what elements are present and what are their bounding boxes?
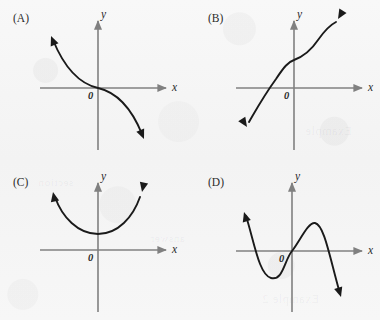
- panel-b-arrowhead-upper-right: [334, 9, 346, 22]
- panel-b-curve-path: [249, 22, 336, 122]
- panel-c-arrowhead-upper-right: [138, 182, 148, 193]
- panel-b-arrowhead-lower-left: [238, 117, 250, 130]
- panel-c-arrowhead-upper-left: [49, 191, 59, 202]
- panel-a-arrowhead-lower-right: [136, 129, 147, 141]
- graphs-canvas: [0, 0, 380, 320]
- panel-a-axes: [40, 21, 166, 150]
- panel-a-arrowhead-upper-left: [47, 34, 58, 46]
- figure-sheet: Example Example 2 section answer (A) (B)…: [0, 0, 380, 320]
- panel-d-arrowhead-lower-right: [334, 287, 345, 299]
- panel-b-axes: [236, 21, 362, 150]
- panel-c-axes: [40, 183, 166, 312]
- panel-b-curve: [238, 9, 346, 130]
- panel-d-arrowhead-upper-left: [240, 211, 251, 223]
